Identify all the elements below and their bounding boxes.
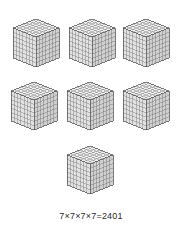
cube-figure-cube-2 [68, 16, 124, 74]
cube-figure-cube-1 [12, 16, 68, 74]
cube-figure-cube-7 [66, 143, 122, 201]
equation-caption: 7×7×7×7=2401 [0, 211, 182, 222]
cube-figure-cube-4 [10, 79, 66, 137]
cube-figure-cube-5 [66, 79, 122, 137]
cube-figure-cube-3 [122, 16, 178, 74]
figure-root: 7×7×7×7=2401 [0, 0, 182, 230]
cube-grid [0, 0, 182, 205]
cube-figure-cube-6 [122, 79, 178, 137]
